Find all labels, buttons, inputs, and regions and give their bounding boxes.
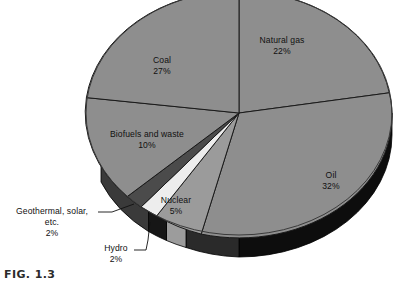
label-natural-gas-text: Natural gas: [259, 35, 304, 45]
label-geothermal-pct: 2%: [6, 228, 98, 239]
label-nuclear-text: Nuclear: [161, 195, 191, 205]
label-geothermal-text-line2: etc.: [6, 217, 98, 228]
label-hydro-pct: 2%: [92, 254, 140, 265]
label-biofuels: Biofuels and waste 10%: [90, 129, 204, 151]
label-coal-text: Coal: [153, 55, 171, 65]
label-geothermal-text-line1: Geothermal, solar,: [16, 206, 88, 216]
label-biofuels-text: Biofuels and waste: [110, 129, 184, 139]
label-coal: Coal 27%: [140, 55, 184, 77]
label-coal-pct: 27%: [140, 66, 184, 77]
label-natural-gas: Natural gas 22%: [243, 35, 321, 57]
label-hydro: Hydro 2%: [92, 243, 140, 265]
figure-caption: FIG. 1.3: [4, 268, 55, 281]
label-natural-gas-pct: 22%: [243, 46, 321, 57]
label-biofuels-pct: 10%: [90, 140, 204, 151]
label-geothermal: Geothermal, solar, etc. 2%: [6, 206, 98, 239]
label-nuclear-pct: 5%: [148, 206, 204, 217]
label-oil-text: Oil: [326, 170, 337, 180]
pie-chart-graphic: [0, 0, 410, 292]
label-oil-pct: 32%: [306, 181, 356, 192]
figure-container: Natural gas 22% Oil 32% Nuclear 5% Hydro…: [0, 0, 410, 292]
label-hydro-text: Hydro: [104, 243, 127, 253]
label-oil: Oil 32%: [306, 170, 356, 192]
label-nuclear: Nuclear 5%: [148, 195, 204, 217]
